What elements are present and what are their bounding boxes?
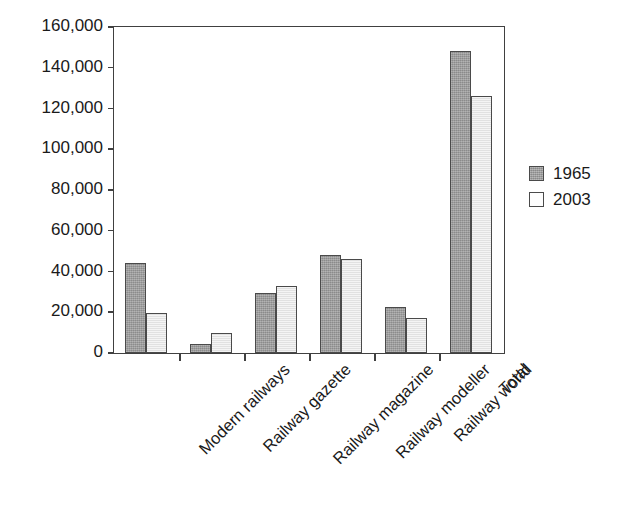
bar-group: [244, 27, 309, 353]
y-tick-label: 100,000: [42, 138, 103, 158]
legend-label: 2003: [553, 190, 591, 209]
bar: [385, 307, 406, 353]
bar: [406, 318, 427, 353]
y-tick-label: 0: [94, 342, 103, 362]
y-tick-label: 80,000: [51, 179, 103, 199]
legend: 19652003: [529, 160, 591, 212]
legend-label: 1965: [553, 164, 591, 183]
bar: [341, 259, 362, 353]
bar: [211, 333, 232, 353]
bar-group: [374, 27, 439, 353]
bar: [450, 51, 471, 353]
bar: [255, 293, 276, 353]
bar: [125, 263, 146, 353]
y-tick-label: 40,000: [51, 261, 103, 281]
y-tick-label: 20,000: [51, 301, 103, 321]
bar-group: [114, 27, 179, 353]
bar: [471, 96, 492, 353]
x-axis-category-labels: Modern railwaysRailway gazetteRailway ma…: [113, 360, 503, 510]
legend-color-swatch: [529, 192, 544, 207]
bar: [276, 286, 297, 353]
legend-item[interactable]: 2003: [529, 186, 591, 212]
y-tick-label: 160,000: [42, 16, 103, 36]
bar: [320, 255, 341, 353]
y-tick-label: 120,000: [42, 98, 103, 118]
legend-color-swatch: [529, 166, 544, 181]
legend-item[interactable]: 1965: [529, 160, 591, 186]
bar-group: [439, 27, 504, 353]
bar: [190, 344, 211, 353]
bar: [146, 313, 167, 353]
bar-group: [309, 27, 374, 353]
y-tick-label: 140,000: [42, 57, 103, 77]
y-tick-label: 60,000: [51, 220, 103, 240]
bar-group: [179, 27, 244, 353]
plot-area: 020,00040,00060,00080,000100,000120,0001…: [113, 26, 505, 354]
bar-chart: 020,00040,00060,00080,000100,000120,0001…: [0, 0, 623, 520]
